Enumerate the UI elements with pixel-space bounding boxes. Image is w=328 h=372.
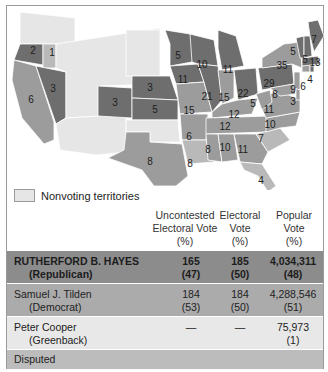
table-row-tilden: Samuel J. Tilden (Democrat) 184 (53) 184… [7, 284, 323, 317]
value: 4,288,546 [261, 288, 325, 301]
electoral-votes-label: 8 [187, 158, 193, 169]
electoral-votes-label: 3 [50, 83, 56, 94]
electoral-votes-label: 13 [309, 57, 321, 68]
candidate-label: Peter Cooper [14, 321, 76, 333]
col-head-popular: Popular Vote (%) [262, 209, 326, 248]
electoral-votes-label: 12 [228, 109, 240, 120]
table-row-cooper: Peter Cooper (Greenback) — — 75,973 (1) [7, 317, 323, 350]
election-map-1876: 2163335851115681021111522121281011471011… [6, 5, 324, 190]
disputed-label: Disputed [14, 353, 55, 366]
electoral-votes-label: 22 [237, 88, 249, 99]
table-row-hayes: RUTHERFORD B. HAYES (Republican) 165 (47… [7, 251, 323, 284]
table-column-headers: Uncontested Electoral Vote (%) Electoral… [0, 209, 328, 249]
electoral-votes-label: 1 [49, 47, 55, 58]
popular-vote: 4,288,546 (51) [261, 288, 325, 314]
candidate-label: RUTHERFORD B. HAYES [14, 255, 139, 267]
state-az-nm-territories [56, 116, 126, 155]
electoral-votes-label: 3 [147, 82, 153, 93]
value: 185 [215, 255, 265, 268]
col-head-line: Vote [212, 222, 268, 235]
table-row-disputed: Disputed [7, 350, 323, 369]
party-label: (Democrat) [14, 301, 92, 314]
electoral-vote: 184 (50) [215, 288, 265, 314]
electoral-votes-label: 7 [311, 34, 317, 45]
electoral-votes-label: 11 [264, 104, 275, 115]
electoral-votes-label: 5 [152, 104, 158, 115]
party-label: (Republican) [14, 268, 139, 281]
electoral-votes-label: 5 [250, 98, 256, 109]
value: — [215, 321, 265, 334]
percent: (48) [261, 268, 325, 281]
legend: Nonvoting territories [14, 189, 139, 202]
state-wa-territory [20, 12, 75, 44]
electoral-votes-label: 10 [196, 59, 208, 70]
electoral-votes-label: 21 [201, 91, 213, 102]
electoral-votes-label: 5 [302, 54, 308, 65]
state-dakota-territory [126, 30, 160, 76]
electoral-votes-label: 35 [276, 60, 288, 71]
candidate-label: Disputed [14, 353, 55, 365]
popular-vote: 75,973 (1) [261, 321, 325, 347]
col-head-line: (%) [212, 235, 268, 248]
electoral-votes-label: 6 [300, 81, 306, 92]
candidate-name: Peter Cooper (Greenback) [14, 321, 87, 347]
percent: (51) [261, 301, 325, 314]
value: 184 [215, 288, 265, 301]
electoral-votes-label: 11 [223, 64, 234, 75]
electoral-votes-label: 15 [218, 92, 230, 103]
electoral-votes-label: 8 [205, 144, 211, 155]
electoral-votes-label: 11 [178, 74, 189, 85]
electoral-votes-label: 10 [219, 142, 231, 153]
candidate-name: RUTHERFORD B. HAYES (Republican) [14, 255, 139, 281]
electoral-votes-label: 3 [290, 96, 296, 107]
state-ne [132, 76, 178, 100]
results-table: RUTHERFORD B. HAYES (Republican) 165 (47… [7, 251, 323, 369]
col-head-line: Electoral [212, 209, 268, 222]
col-head-line: Popular [262, 209, 326, 222]
col-head-line: Vote [262, 222, 326, 235]
candidate-name: Samuel J. Tilden (Democrat) [14, 288, 92, 314]
col-head-line: (%) [262, 235, 326, 248]
legend-label: Nonvoting territories [41, 190, 139, 202]
electoral-votes-label: 5 [175, 50, 181, 61]
electoral-votes-label: 3 [112, 97, 118, 108]
electoral-vote: 185 (50) [215, 255, 265, 281]
candidate-label: Samuel J. Tilden [14, 288, 92, 300]
electoral-votes-label: 4 [307, 74, 313, 85]
col-head-electoral: Electoral Vote (%) [212, 209, 268, 248]
percent: (1) [261, 334, 325, 347]
electoral-votes-label: 11 [238, 144, 249, 155]
electoral-votes-label: 8 [147, 156, 153, 167]
electoral-votes-label: 6 [28, 94, 34, 105]
popular-vote: 4,034,311 (48) [261, 255, 325, 281]
value: 75,973 [261, 321, 325, 334]
electoral-votes-label: 6 [186, 131, 192, 142]
electoral-votes-label: 4 [258, 175, 264, 186]
percent: (50) [215, 268, 265, 281]
electoral-votes-label: 10 [264, 119, 276, 130]
us-map: 2163335851115681021111522121281011471011… [6, 5, 324, 190]
state-ar [180, 114, 208, 140]
electoral-votes-label: 2 [30, 45, 36, 56]
electoral-vote: — [215, 321, 265, 334]
percent: (50) [215, 301, 265, 314]
value: 4,034,311 [261, 255, 325, 268]
electoral-votes-label: 12 [219, 121, 231, 132]
electoral-votes-label: 9 [290, 84, 296, 95]
electoral-votes-label: 7 [258, 133, 264, 144]
nonvoting-territories-swatch [14, 189, 35, 202]
electoral-votes-label: 29 [263, 78, 275, 89]
electoral-votes-label: 15 [183, 105, 195, 116]
electoral-votes-label: 8 [272, 89, 278, 100]
party-label: (Greenback) [14, 334, 87, 347]
electoral-votes-label: 5 [290, 46, 296, 57]
